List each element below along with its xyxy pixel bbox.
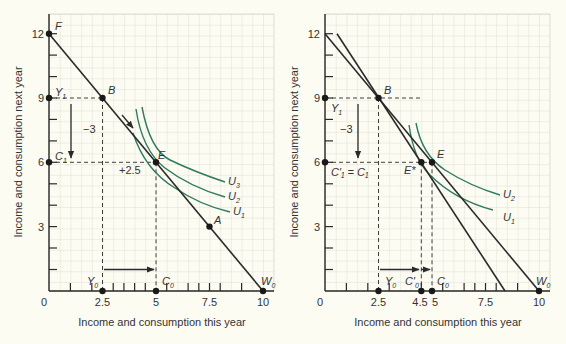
left-y-tick-6: 6 bbox=[38, 156, 44, 168]
label-c1-eq: C′₁ = C₁ bbox=[331, 166, 369, 178]
figure: 12 9 6 3 0 2.5 5 7.5 10 Income and consu… bbox=[0, 0, 566, 344]
point-c0 bbox=[429, 288, 435, 294]
right-x-tick-10: 10 bbox=[533, 296, 545, 308]
right-x-tick-0: 0 bbox=[317, 296, 323, 308]
right-y-tick-3: 3 bbox=[314, 221, 320, 233]
point-y1 bbox=[46, 95, 52, 101]
point-b bbox=[375, 95, 381, 101]
label-e: E bbox=[158, 149, 166, 161]
point-e-star bbox=[418, 159, 424, 165]
right-y-tick-12: 12 bbox=[308, 28, 320, 40]
right-x-tick-5: 5 bbox=[432, 296, 438, 308]
point-w0 bbox=[536, 288, 542, 294]
left-panel: 12 9 6 3 0 2.5 5 7.5 10 Income and consu… bbox=[12, 14, 275, 328]
right-y-tick-6: 6 bbox=[314, 156, 320, 168]
left-y-tick-9: 9 bbox=[38, 92, 44, 104]
label-b: B bbox=[384, 84, 391, 96]
point-b bbox=[99, 95, 105, 101]
label-minus-3: −3 bbox=[83, 123, 96, 135]
left-x-tick-2-5: 2.5 bbox=[95, 296, 110, 308]
right-y-axis-title: Income and consumption next year bbox=[288, 66, 300, 238]
right-panel: 12 9 6 3 0 2.5 4.5 5 7.5 10 Income and c… bbox=[288, 14, 550, 328]
right-y-tick-9: 9 bbox=[314, 92, 320, 104]
left-x-axis-title: Income and consumption this year bbox=[78, 316, 246, 328]
label-e-star: E* bbox=[404, 164, 416, 176]
point-a bbox=[206, 223, 212, 229]
right-x-tick-7-5: 7.5 bbox=[478, 296, 493, 308]
left-x-tick-0: 0 bbox=[41, 296, 47, 308]
right-x-axis-title: Income and consumption this year bbox=[354, 316, 522, 328]
left-y-tick-12: 12 bbox=[32, 28, 44, 40]
label-b: B bbox=[108, 84, 115, 96]
point-w0 bbox=[260, 288, 266, 294]
left-x-tick-7-5: 7.5 bbox=[202, 296, 217, 308]
left-x-tick-5: 5 bbox=[153, 296, 159, 308]
point-c1 bbox=[322, 159, 328, 165]
point-c0 bbox=[153, 288, 159, 294]
left-x-tick-10: 10 bbox=[257, 296, 269, 308]
point-e bbox=[429, 159, 435, 165]
point-f bbox=[46, 31, 52, 37]
left-y-axis-title: Income and consumption next year bbox=[12, 66, 24, 238]
point-y1 bbox=[322, 95, 328, 101]
label-a: A bbox=[213, 214, 221, 226]
left-y-tick-3: 3 bbox=[38, 221, 44, 233]
right-x-tick-4-5: 4.5 bbox=[412, 296, 427, 308]
point-c1 bbox=[46, 159, 52, 165]
label-plus-2-5: +2.5 bbox=[119, 164, 141, 176]
label-minus-3: −3 bbox=[340, 123, 353, 135]
point-y0 bbox=[99, 288, 105, 294]
label-e: E bbox=[437, 148, 445, 160]
point-c0-prime bbox=[418, 288, 424, 294]
point-y0 bbox=[375, 288, 381, 294]
right-x-tick-2-5: 2.5 bbox=[371, 296, 386, 308]
